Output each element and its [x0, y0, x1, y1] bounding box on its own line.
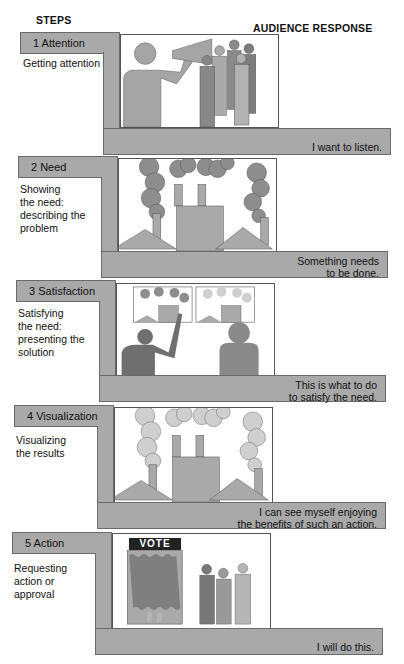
step-2-label: 2 Need	[18, 156, 118, 178]
factory-dark-smoke-icon	[119, 159, 276, 251]
step-4-response: I can see myself enjoying the benefits o…	[97, 502, 386, 529]
step-4-connector	[97, 426, 114, 503]
step-1-response: I want to listen.	[103, 128, 391, 155]
step-5-description: Requesting action or approval	[14, 562, 67, 601]
presenter-before-after-icon	[117, 284, 274, 375]
step-1-illustration	[120, 34, 279, 128]
step-4-description: Visualizing the results	[16, 434, 66, 460]
step-5-connector	[95, 553, 112, 629]
step-1-description: Getting attention	[23, 57, 100, 70]
step-4-label: 4 Visualization	[14, 405, 114, 427]
step-3-connector	[99, 301, 116, 376]
step-2-description: Showing the need: describing the problem	[20, 183, 85, 235]
step-3-label: 3 Satisfaction	[16, 280, 116, 302]
vote-sign: VOTE	[129, 538, 181, 550]
step-5-label: 5 Action	[12, 532, 112, 554]
steps-header: STEPS	[36, 14, 71, 26]
step-2-illustration	[118, 158, 277, 252]
step-1-connector	[103, 52, 120, 129]
step-3-description: Satisfying the need: presenting the solu…	[18, 307, 85, 359]
step-5-illustration: VOTE	[112, 533, 271, 629]
audience-response-header: AUDIENCE RESPONSE	[253, 22, 373, 34]
step-5-response: I will do this.	[95, 628, 383, 655]
factory-light-smoke-icon	[115, 408, 272, 502]
step-3-response: This is what to do to satisfy the need.	[99, 375, 386, 402]
step-2-connector	[101, 177, 118, 252]
step-1-label: 1 Attention	[20, 32, 120, 54]
step-3-illustration	[116, 283, 275, 376]
step-4-illustration	[114, 407, 273, 503]
step-2-response: Something needs to be done.	[101, 251, 388, 278]
speaker-megaphone-crowd-icon	[121, 35, 278, 127]
